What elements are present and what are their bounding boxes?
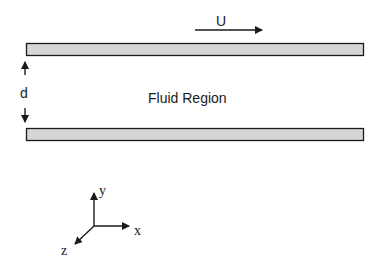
top-plate bbox=[27, 44, 364, 56]
coordinate-axes bbox=[75, 193, 129, 244]
z-axis-arrow-icon bbox=[75, 226, 94, 244]
fluid-region-label: Fluid Region bbox=[148, 90, 227, 106]
bottom-plate bbox=[27, 129, 364, 141]
couette-diagram: U d Fluid Region y x z bbox=[0, 0, 380, 264]
gap-label: d bbox=[20, 85, 28, 101]
velocity-label: U bbox=[216, 13, 226, 29]
y-axis-label: y bbox=[99, 183, 106, 198]
z-axis-label: z bbox=[61, 243, 67, 258]
x-axis-label: x bbox=[134, 223, 141, 238]
